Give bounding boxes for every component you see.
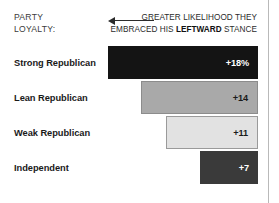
chart-annotation-line-1: GREATER LIKELIHOOD THEY (91, 12, 257, 24)
bar: +14 (141, 81, 258, 114)
chart-row: Strong Republican+18% (0, 45, 268, 80)
chart-annotation-line-2-post: STANCE (222, 25, 257, 34)
bar-category-label: Weak Republican (14, 115, 90, 150)
chart-row: Independent+7 (0, 150, 268, 185)
bar-category-label: Independent (14, 150, 69, 185)
bar: +7 (200, 151, 258, 184)
chart-plot-area: Strong Republican+18%Lean Republican+14W… (0, 45, 268, 203)
chart-annotation-line-2-pre: EMBRACED HIS (111, 25, 176, 34)
chart-row: Lean Republican+14 (0, 80, 268, 115)
axis-group-label-line-1: PARTY (14, 12, 55, 24)
bar-value-label: +14 (233, 93, 257, 103)
bar-category-label: Lean Republican (14, 80, 88, 115)
chart-annotation-line-2: EMBRACED HIS LEFTWARD STANCE (91, 24, 257, 36)
right-border-rule (268, 0, 269, 203)
bar: +18% (108, 46, 258, 79)
bar: +11 (166, 116, 258, 149)
bar-value-label: +7 (239, 163, 258, 173)
chart-annotation: GREATER LIKELIHOOD THEY EMBRACED HIS LEF… (91, 12, 257, 35)
axis-group-label: PARTY LOYALTY: (14, 12, 55, 35)
party-loyalty-bar-chart: PARTY LOYALTY: GREATER LIKELIHOOD THEY E… (0, 0, 279, 203)
axis-group-label-line-2: LOYALTY: (14, 24, 55, 36)
bar-category-label: Strong Republican (14, 45, 96, 80)
chart-row: Weak Republican+11 (0, 115, 268, 150)
chart-annotation-emphasis: LEFTWARD (176, 25, 222, 34)
bar-value-label: +11 (233, 128, 257, 138)
bar-value-label: +18% (226, 58, 258, 68)
chart-header: PARTY LOYALTY: GREATER LIKELIHOOD THEY E… (0, 0, 268, 45)
